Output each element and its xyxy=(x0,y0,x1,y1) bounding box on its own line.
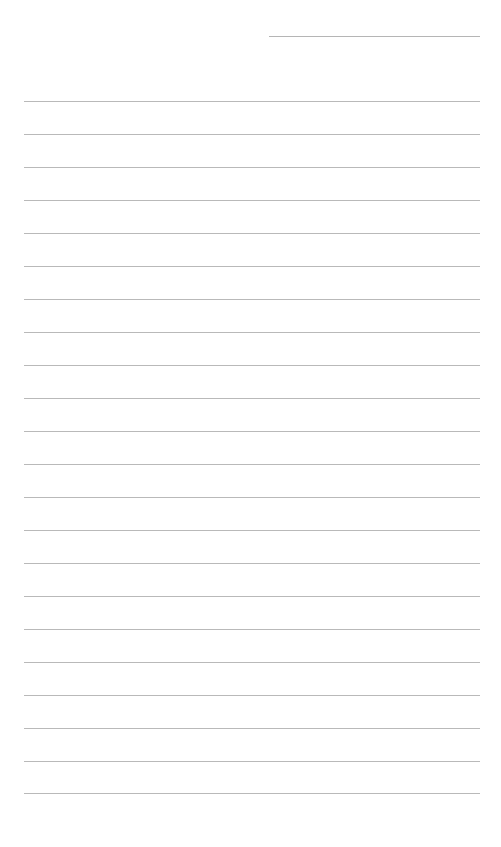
ruled-line xyxy=(24,233,480,234)
ruled-line xyxy=(24,167,480,168)
ruled-line xyxy=(24,101,480,102)
ruled-line xyxy=(24,365,480,366)
ruled-line xyxy=(24,530,480,531)
ruled-line xyxy=(24,134,480,135)
ruled-line xyxy=(24,662,480,663)
ruled-line xyxy=(24,629,480,630)
lined-page xyxy=(0,0,501,847)
ruled-line xyxy=(24,563,480,564)
header-signature-line xyxy=(269,36,480,37)
ruled-line xyxy=(24,761,480,762)
ruled-line xyxy=(24,200,480,201)
ruled-line xyxy=(24,266,480,267)
ruled-line xyxy=(24,299,480,300)
ruled-line xyxy=(24,497,480,498)
ruled-line xyxy=(24,464,480,465)
ruled-line xyxy=(24,398,480,399)
ruled-line xyxy=(24,431,480,432)
ruled-line xyxy=(24,695,480,696)
ruled-line xyxy=(24,728,480,729)
ruled-line xyxy=(24,332,480,333)
ruled-line xyxy=(24,793,480,794)
ruled-line xyxy=(24,596,480,597)
